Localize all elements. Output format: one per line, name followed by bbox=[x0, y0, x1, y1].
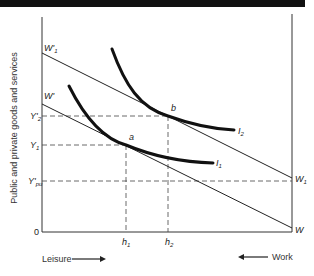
curve-i1-label: I1 bbox=[216, 158, 222, 169]
top-bar bbox=[0, 0, 305, 7]
work-label: Work bbox=[272, 252, 293, 262]
w1-label: W1 bbox=[295, 174, 307, 185]
budget-line-w bbox=[42, 104, 292, 228]
economics-diagram: Public and private goods and services b … bbox=[0, 0, 314, 276]
w1prime-label: W'1 bbox=[44, 43, 58, 54]
left-arrow-icon bbox=[238, 254, 268, 260]
h2-label: h2 bbox=[165, 237, 174, 248]
wprime-label: W' bbox=[44, 91, 54, 101]
curve-i2-label: I2 bbox=[238, 126, 245, 137]
y-axis-label: Public and private goods and services bbox=[9, 52, 19, 204]
right-arrow-icon bbox=[72, 256, 106, 262]
h1-label: h1 bbox=[122, 237, 130, 248]
ypu-label: Y'pu bbox=[28, 176, 43, 187]
y2-label: Y'2 bbox=[30, 111, 42, 122]
leisure-label: Leisure bbox=[42, 254, 72, 264]
indifference-curve-i2 bbox=[112, 49, 234, 130]
point-b-label: b bbox=[171, 103, 176, 113]
y1-label: Y1 bbox=[30, 140, 39, 151]
point-a-label: a bbox=[129, 132, 134, 142]
w-label: W bbox=[295, 225, 305, 235]
origin-label: 0 bbox=[34, 227, 39, 237]
